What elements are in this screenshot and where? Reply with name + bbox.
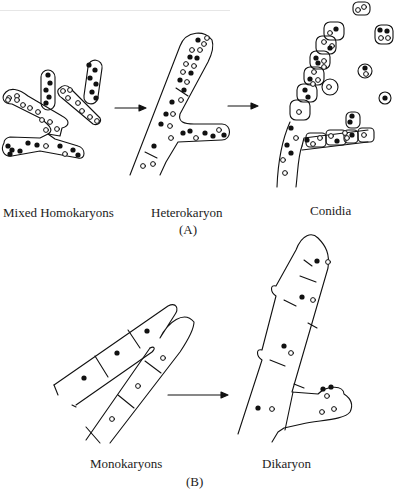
arrow-b	[168, 392, 228, 398]
stage-label-heterokaryon: Heterokaryon	[151, 205, 222, 221]
mixed-homokaryons-drawing	[2, 59, 103, 158]
panel-label-a: (A)	[179, 222, 197, 238]
monokaryons-drawing	[54, 305, 194, 443]
stage-label-monokaryons: Monokaryons	[90, 456, 162, 472]
heterokaryon-drawing	[130, 33, 230, 175]
arrow-a2	[228, 103, 258, 109]
stage-label-mixed-homokaryons: Mixed Homokaryons	[3, 205, 114, 221]
stage-label-dikaryon: Dikaryon	[262, 456, 311, 472]
arrow-a1	[115, 105, 146, 111]
fungal-genetics-diagram	[0, 0, 400, 499]
stage-label-conidia: Conidia	[310, 203, 351, 219]
panel-label-b: (B)	[186, 474, 203, 490]
